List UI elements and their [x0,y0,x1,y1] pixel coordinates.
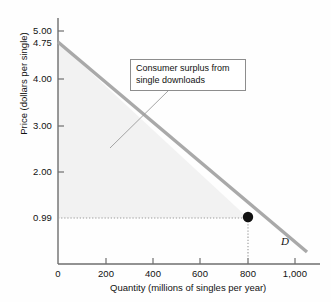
y-tick-label-099: 0.99 [18,212,52,223]
x-tick-label-200: 200 [92,268,120,279]
consumer-surplus-chart: 5.00 4.75 4.00 3.00 2.00 0.99 0 200 400 … [0,0,331,302]
y-axis-title: Price (dollars per single) [18,19,29,149]
equilibrium-point [243,212,253,222]
x-tick-label-1000: 1,000 [279,268,311,279]
y-tick-label-2: 2.00 [18,166,52,177]
consumer-surplus-callout: Consumer surplus from single downloads [130,59,246,91]
x-tick-label-800: 800 [234,268,262,279]
x-tick-label-0: 0 [44,268,72,279]
x-axis-title: Quantity (millions of singles per year) [110,282,266,293]
x-tick-label-400: 400 [139,268,167,279]
callout-line-1: Consumer surplus from [136,63,240,75]
x-tick-label-600: 600 [186,268,214,279]
demand-curve-label: D [281,235,289,247]
x-tick-marks [106,258,295,264]
callout-line-2: single downloads [136,75,240,87]
